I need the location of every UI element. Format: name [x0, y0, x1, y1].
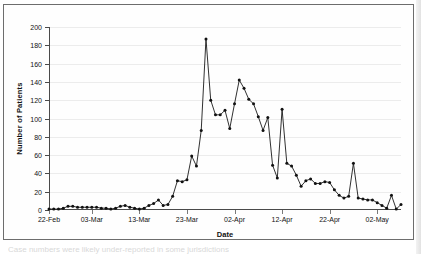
- x-tick-label: 13-Mar: [128, 216, 150, 224]
- scanned-page-edge: [416, 0, 421, 254]
- data-point: [162, 204, 165, 207]
- data-point: [342, 197, 345, 200]
- data-point: [190, 155, 193, 158]
- data-point: [319, 182, 322, 185]
- x-tick-label: 23-Mar: [176, 216, 198, 224]
- data-point: [262, 129, 265, 132]
- data-point: [243, 87, 246, 90]
- data-point: [395, 208, 398, 211]
- x-tick-mark: [377, 210, 378, 214]
- data-point: [157, 198, 160, 201]
- data-point: [233, 102, 236, 105]
- data-point: [204, 37, 207, 40]
- data-point: [257, 115, 260, 118]
- data-point: [323, 180, 326, 183]
- data-point: [76, 206, 79, 209]
- data-point: [390, 194, 393, 197]
- y-axis-title: Number of Patients: [13, 27, 25, 210]
- x-tick-label: 03-Mar: [81, 216, 103, 224]
- x-tick-mark: [92, 210, 93, 214]
- data-point: [219, 113, 222, 116]
- y-tick-label: 160: [30, 60, 42, 67]
- data-point: [133, 207, 136, 210]
- data-point: [276, 176, 279, 179]
- data-point: [114, 207, 117, 210]
- data-point: [238, 79, 241, 82]
- y-tick-label: 140: [30, 78, 42, 85]
- data-point: [252, 102, 255, 105]
- y-tick-label: 120: [30, 97, 42, 104]
- data-point: [181, 180, 184, 183]
- data-point: [271, 164, 274, 167]
- x-tick-label: 12-Apr: [272, 216, 293, 224]
- data-point: [143, 207, 146, 210]
- data-point: [328, 181, 331, 184]
- data-point: [380, 204, 383, 207]
- data-point: [95, 206, 98, 209]
- data-point: [166, 203, 169, 206]
- x-tick-label: 22-Apr: [319, 216, 340, 224]
- y-tick-label: 100: [30, 115, 42, 122]
- data-point: [119, 205, 122, 208]
- y-tick-label: 40: [34, 170, 42, 177]
- data-point: [138, 208, 141, 211]
- data-point: [338, 194, 341, 197]
- x-tick-mark: [49, 210, 50, 214]
- data-point: [300, 185, 303, 188]
- data-point: [152, 202, 155, 205]
- data-point: [290, 165, 293, 168]
- data-point: [352, 162, 355, 165]
- data-point: [347, 195, 350, 198]
- data-point: [200, 129, 203, 132]
- data-point: [52, 208, 55, 211]
- data-point: [57, 208, 60, 211]
- x-axis-title: Date: [49, 230, 401, 239]
- data-point: [361, 198, 364, 201]
- y-axis-title-label: Number of Patients: [15, 82, 24, 154]
- data-point: [67, 205, 70, 208]
- plot-area: 020406080100120140160180200 22-Feb03-Mar…: [49, 27, 401, 210]
- data-point: [62, 207, 65, 210]
- data-point: [109, 208, 112, 211]
- data-point: [209, 99, 212, 102]
- y-tick-label: 20: [34, 188, 42, 195]
- x-tick-label: 02-May: [366, 216, 389, 224]
- plot-frame: 020406080100120140160180200 22-Feb03-Mar…: [49, 27, 401, 210]
- data-point: [304, 179, 307, 182]
- data-point: [48, 208, 51, 211]
- y-tick-label: 60: [34, 152, 42, 159]
- data-point: [81, 206, 84, 209]
- data-point: [371, 198, 374, 201]
- data-point: [247, 98, 250, 101]
- y-tick-label: 200: [30, 24, 42, 31]
- data-point: [90, 206, 93, 209]
- data-point: [266, 116, 269, 119]
- data-point: [71, 205, 74, 208]
- data-point: [357, 197, 360, 200]
- data-point: [376, 201, 379, 204]
- figure-frame: Number of Patients 020406080100120140160…: [3, 4, 414, 240]
- x-tick-mark: [187, 210, 188, 214]
- data-point: [333, 188, 336, 191]
- data-point: [147, 204, 150, 207]
- x-tick-mark: [330, 210, 331, 214]
- data-point: [171, 195, 174, 198]
- data-point: [195, 165, 198, 168]
- data-point: [309, 177, 312, 180]
- data-point: [214, 113, 217, 116]
- data-point: [185, 178, 188, 181]
- data-point: [400, 203, 403, 206]
- y-tick-label: 0: [38, 207, 42, 214]
- data-point: [385, 207, 388, 210]
- data-point: [366, 198, 369, 201]
- y-tick-label: 80: [34, 133, 42, 140]
- data-point: [224, 109, 227, 112]
- data-point: [295, 174, 298, 177]
- data-point: [314, 182, 317, 185]
- page-caption-fragment: Case numbers were likely under-reported …: [8, 245, 308, 254]
- x-tick-label: 22-Feb: [38, 216, 60, 224]
- series-polyline: [49, 39, 401, 209]
- x-tick-mark: [282, 210, 283, 214]
- data-point: [285, 162, 288, 165]
- data-point: [176, 179, 179, 182]
